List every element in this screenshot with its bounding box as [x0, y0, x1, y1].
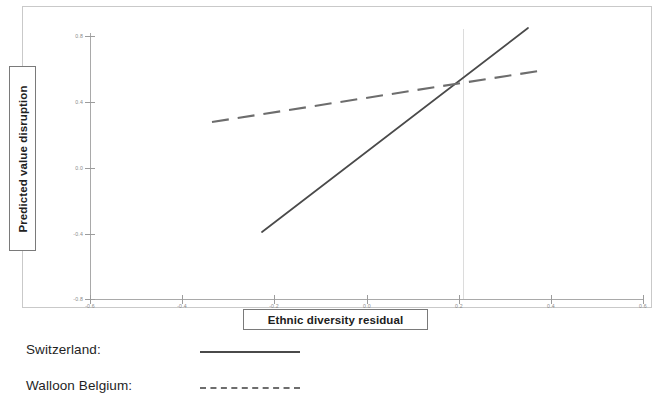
legend-swatch-solid-line — [200, 351, 300, 353]
y-axis-title-label: Predicted value disruption — [17, 85, 29, 232]
legend-item-switzerland: Switzerland: — [26, 340, 356, 376]
legend-swatch-dashed-line — [200, 387, 300, 389]
series-line-walloon-belgium — [212, 70, 545, 122]
legend-label: Walloon Belgium: — [26, 378, 132, 393]
x-axis-title: Ethnic diversity residual — [243, 309, 428, 330]
y-axis-title: Predicted value disruption — [9, 66, 36, 251]
x-axis-title-label: Ethnic diversity residual — [268, 314, 403, 326]
legend-label: Switzerland: — [26, 342, 101, 357]
legend-item-walloon-belgium: Walloon Belgium: — [26, 376, 356, 412]
series-line-switzerland — [262, 28, 528, 232]
chart-legend: Switzerland: Walloon Belgium: — [26, 340, 356, 412]
